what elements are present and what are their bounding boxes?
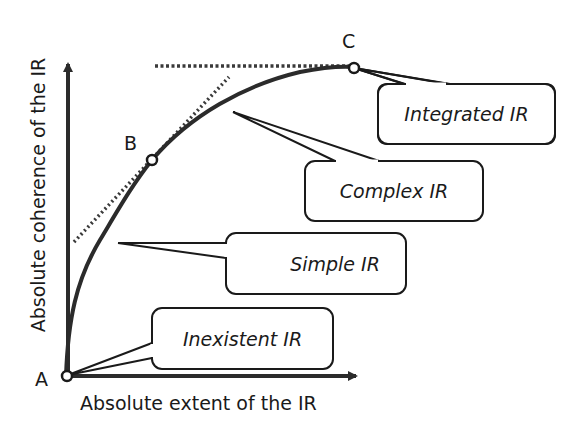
point-a-marker	[62, 371, 72, 381]
point-a-label: A	[35, 370, 48, 389]
callout-integrated-label: Integrated IR	[378, 105, 555, 124]
callout-simple-label: Simple IR	[245, 255, 425, 274]
diagram-canvas	[0, 0, 584, 440]
point-b-marker	[147, 155, 157, 165]
callout-inexistent-label: Inexistent IR	[152, 330, 333, 349]
point-c-label: C	[342, 32, 355, 51]
y-axis-label: Absolute coherence of the IR	[29, 58, 48, 333]
point-b-label: B	[124, 134, 137, 153]
callout-complex-label: Complex IR	[305, 182, 483, 201]
x-axis-label: Absolute extent of the IR	[80, 394, 317, 413]
point-c-marker	[349, 63, 359, 73]
